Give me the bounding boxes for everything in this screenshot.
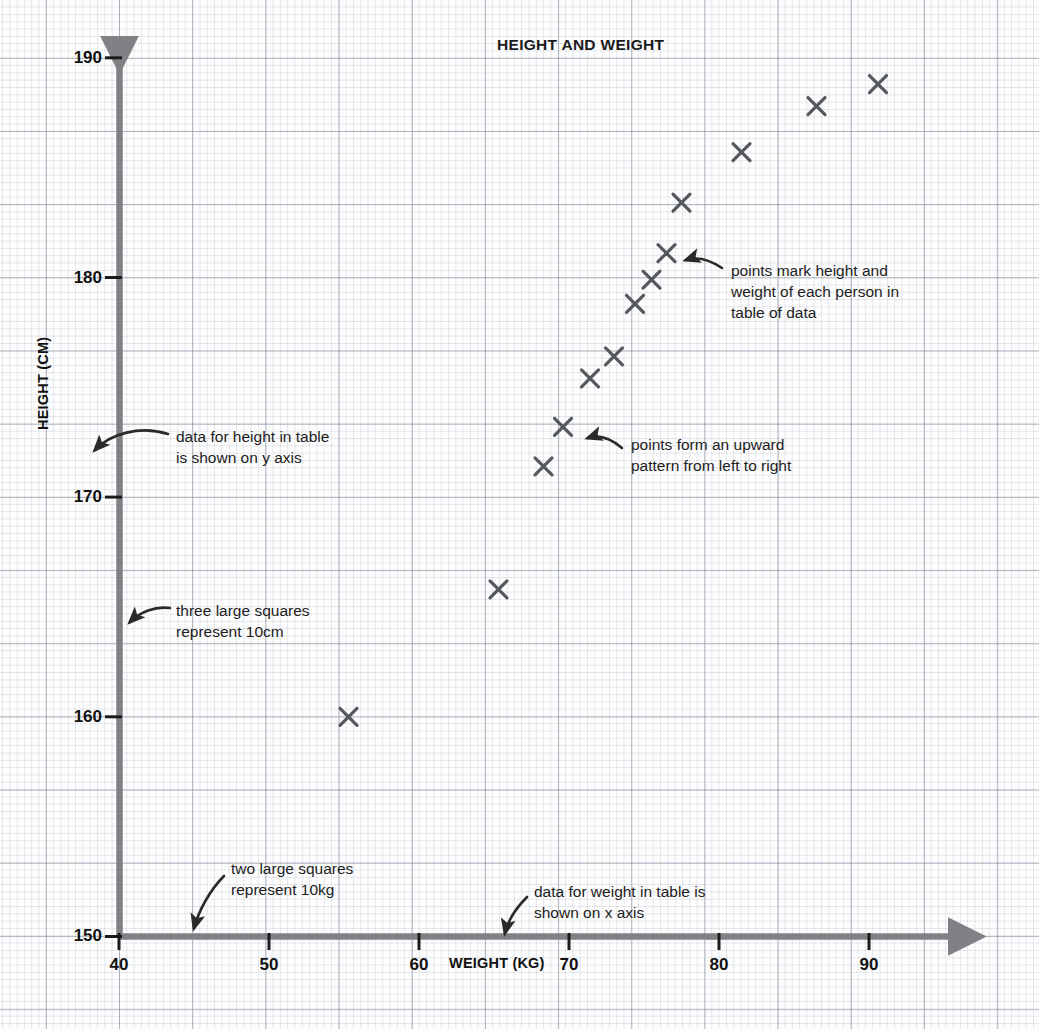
arrow-upward-pattern xyxy=(588,437,622,448)
arrow-two-squares xyxy=(194,876,224,928)
data-point-marker xyxy=(733,144,750,161)
arrow-points-mark xyxy=(686,259,722,268)
data-point-marker xyxy=(606,348,623,365)
data-point-marker xyxy=(555,418,572,435)
data-point-marker xyxy=(490,581,507,598)
data-point-marker xyxy=(673,194,690,211)
data-point-marker xyxy=(340,708,357,725)
data-point-marker xyxy=(627,295,644,312)
data-point-marker xyxy=(658,245,675,262)
data-point-markers xyxy=(340,76,887,726)
data-point-marker xyxy=(643,271,660,288)
data-point-marker xyxy=(582,370,599,387)
data-point-marker xyxy=(535,458,552,475)
annotation-arrows xyxy=(95,259,722,933)
arrow-height-on-y xyxy=(95,430,168,450)
plot-area xyxy=(0,0,1039,1029)
scatter-chart-page: HEIGHT AND WEIGHT 190 180 170 160 150 40… xyxy=(0,0,1039,1029)
arrow-three-squares xyxy=(130,608,170,622)
data-point-marker xyxy=(808,98,825,115)
data-point-marker xyxy=(870,76,887,93)
arrow-weight-on-x xyxy=(505,897,527,933)
